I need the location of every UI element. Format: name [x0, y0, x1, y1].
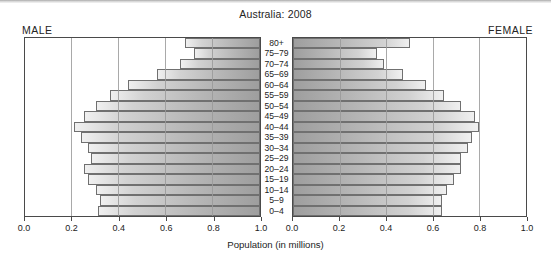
male-bar-row — [25, 185, 260, 195]
age-group-label: 80+ — [261, 38, 292, 48]
axis-tick — [71, 217, 72, 221]
female-bar — [293, 174, 454, 184]
axis-tick-label: 0.6 — [160, 223, 173, 233]
male-bar — [110, 90, 260, 100]
female-side-label: FEMALE — [488, 24, 533, 36]
male-bar — [84, 111, 260, 121]
female-bar-row — [293, 174, 526, 184]
male-bar-row — [25, 48, 260, 58]
female-bar — [293, 164, 461, 174]
male-bar — [91, 153, 260, 163]
male-bar — [194, 48, 260, 58]
female-bar — [293, 80, 426, 90]
axis-tick — [261, 217, 262, 221]
male-bar-row — [25, 174, 260, 184]
female-bar-row — [293, 48, 526, 58]
male-side-label: MALE — [22, 24, 53, 36]
female-bar — [293, 111, 475, 121]
age-group-label: 40–44 — [261, 122, 292, 132]
male-bar-row — [25, 132, 260, 142]
age-group-label: 60–64 — [261, 80, 292, 90]
scan-artifact — [0, 0, 551, 3]
male-bar-row — [25, 101, 260, 111]
axis-tick — [527, 217, 528, 221]
gridline — [212, 38, 213, 216]
male-bar-row — [25, 153, 260, 163]
male-bar — [74, 122, 260, 132]
female-bar — [293, 206, 442, 216]
female-bar — [293, 101, 461, 111]
gridline — [340, 38, 341, 216]
axis-tick-label: 0.0 — [286, 223, 299, 233]
axis-tick-label: 1.0 — [521, 223, 534, 233]
age-group-label: 50–54 — [261, 101, 292, 111]
axis-tick — [292, 217, 293, 221]
female-bar — [293, 132, 472, 142]
male-bar — [98, 206, 260, 216]
male-bar-group — [25, 38, 260, 216]
male-bar — [81, 132, 260, 142]
female-bar-row — [293, 195, 526, 205]
male-bar — [100, 195, 260, 205]
female-bar-row — [293, 185, 526, 195]
female-bar — [293, 59, 384, 69]
female-bar-row — [293, 143, 526, 153]
chart-title: Australia: 2008 — [0, 8, 551, 20]
male-bar-row — [25, 143, 260, 153]
female-bar-row — [293, 111, 526, 121]
axis-tick-label: 0.4 — [113, 223, 126, 233]
axis-tick-label: 1.0 — [255, 223, 268, 233]
female-bar — [293, 185, 447, 195]
male-bar — [96, 185, 261, 195]
male-bar — [128, 80, 260, 90]
axis-tick — [119, 217, 120, 221]
female-plot-panel — [292, 37, 527, 217]
male-bar — [88, 143, 260, 153]
male-bar-row — [25, 206, 260, 216]
male-bar-row — [25, 80, 260, 90]
male-bar-row — [25, 111, 260, 121]
male-bar-row — [25, 195, 260, 205]
female-x-axis: 0.00.20.40.60.81.0 — [292, 217, 527, 239]
male-bar — [96, 101, 261, 111]
male-bar-row — [25, 90, 260, 100]
female-bar — [293, 48, 377, 58]
axis-tick — [24, 217, 25, 221]
age-group-label: 55–59 — [261, 90, 292, 100]
axis-tick-label: 0.0 — [18, 223, 31, 233]
x-axis-title: Population (in millions) — [0, 239, 551, 250]
age-group-label: 35–39 — [261, 132, 292, 142]
female-bar-row — [293, 164, 526, 174]
age-group-label: 0–4 — [261, 206, 292, 216]
female-bar — [293, 153, 461, 163]
axis-tick-label: 0.8 — [474, 223, 487, 233]
male-bar — [88, 174, 260, 184]
age-group-label: 15–19 — [261, 174, 292, 184]
axis-tick-label: 0.4 — [380, 223, 393, 233]
age-group-label: 30–34 — [261, 143, 292, 153]
age-group-label: 5–9 — [261, 195, 292, 205]
age-group-label: 75–79 — [261, 48, 292, 58]
axis-tick-label: 0.8 — [207, 223, 220, 233]
age-group-label: 45–49 — [261, 111, 292, 121]
axis-tick — [480, 217, 481, 221]
gridline — [433, 38, 434, 216]
gridline — [118, 38, 119, 216]
female-bar — [293, 90, 444, 100]
female-bar-row — [293, 90, 526, 100]
male-bar-row — [25, 164, 260, 174]
axis-tick-label: 0.6 — [427, 223, 440, 233]
gridline — [386, 38, 387, 216]
male-bar — [84, 164, 260, 174]
female-bar — [293, 38, 410, 48]
male-bar-row — [25, 69, 260, 79]
axis-tick — [386, 217, 387, 221]
male-bar — [180, 59, 260, 69]
female-bar-row — [293, 206, 526, 216]
axis-tick — [166, 217, 167, 221]
female-bar-row — [293, 59, 526, 69]
age-group-label: 70–74 — [261, 59, 292, 69]
female-bar — [293, 143, 468, 153]
age-group-label: 25–29 — [261, 153, 292, 163]
male-x-axis: 1.00.80.60.40.20.0 — [24, 217, 261, 239]
